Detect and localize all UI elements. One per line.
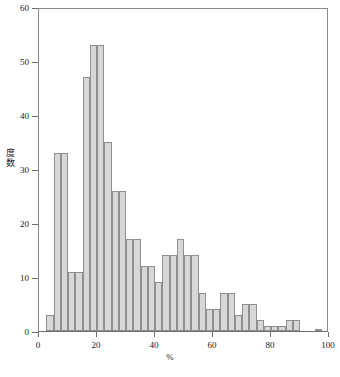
histogram-bar	[68, 272, 75, 331]
histogram-bar	[177, 239, 184, 331]
histogram-bar	[97, 45, 104, 331]
histogram-bar	[112, 191, 119, 331]
histogram-bar	[286, 320, 293, 331]
histogram-bar	[242, 304, 249, 331]
y-axis-tick-label: 30	[3, 166, 29, 175]
histogram-bar	[191, 255, 198, 331]
histogram-bar	[54, 153, 61, 331]
histogram-bar	[75, 272, 82, 331]
histogram-bar	[46, 315, 53, 331]
bars-layer	[39, 9, 327, 331]
y-axis-tick-label: 60	[3, 4, 29, 13]
histogram-bar	[170, 255, 177, 331]
histogram-bar	[155, 282, 162, 331]
x-axis-tick-label: 100	[308, 340, 340, 350]
x-axis-tick-label: 40	[134, 340, 174, 350]
plot-area	[38, 8, 328, 332]
histogram-bar	[235, 315, 242, 331]
histogram-bar	[162, 255, 169, 331]
y-axis-title: 度 数	[4, 148, 16, 168]
histogram-bar	[104, 142, 111, 331]
histogram-bar	[213, 309, 220, 331]
histogram-bar	[278, 326, 285, 331]
histogram-bar	[315, 329, 322, 331]
histogram-bar	[271, 326, 278, 331]
x-axis-tick	[154, 332, 155, 337]
x-axis-tick-label: 60	[192, 340, 232, 350]
x-axis-tick	[96, 332, 97, 337]
x-axis-tick	[212, 332, 213, 337]
x-axis-tick	[328, 332, 329, 337]
histogram-bar	[206, 309, 213, 331]
histogram-bar	[293, 320, 300, 331]
histogram-bar	[148, 266, 155, 331]
histogram-bar	[126, 239, 133, 331]
histogram-bar	[90, 45, 97, 331]
histogram-bar	[220, 293, 227, 331]
histogram-bar	[184, 255, 191, 331]
histogram-bar	[199, 293, 206, 331]
histogram-bar	[83, 77, 90, 331]
x-axis-tick-label: 20	[76, 340, 116, 350]
y-axis-tick-label: 40	[3, 112, 29, 121]
x-axis-tick-label: 0	[18, 340, 58, 350]
y-axis-title-char-1: 度	[4, 148, 16, 158]
histogram-bar	[264, 326, 271, 331]
histogram-bar	[228, 293, 235, 331]
y-axis-tick-label: 0	[3, 328, 29, 337]
x-axis-tick-label: 80	[250, 340, 290, 350]
histogram-bar	[133, 239, 140, 331]
histogram-bar	[257, 320, 264, 331]
histogram-bar	[119, 191, 126, 331]
y-axis-tick-label: 50	[3, 58, 29, 67]
histogram-figure: 度 数 0102030405060 020406080100 %	[0, 0, 340, 377]
x-axis-tick	[38, 332, 39, 337]
y-axis-tick-label: 10	[3, 274, 29, 283]
y-axis-tick-label: 20	[3, 220, 29, 229]
x-axis-title: %	[0, 352, 340, 362]
histogram-bar	[61, 153, 68, 331]
x-axis-tick	[270, 332, 271, 337]
histogram-bar	[141, 266, 148, 331]
histogram-bar	[249, 304, 256, 331]
